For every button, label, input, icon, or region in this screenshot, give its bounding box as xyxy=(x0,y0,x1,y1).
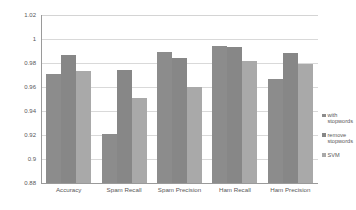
legend-swatch-icon xyxy=(322,153,326,157)
bar[interactable] xyxy=(172,58,187,183)
legend-item[interactable]: remove stopwords xyxy=(322,132,356,145)
x-axis-tick-label: Ham Precision xyxy=(263,186,318,193)
bar-group xyxy=(207,15,262,183)
bar[interactable] xyxy=(212,46,227,183)
bar-group xyxy=(152,15,207,183)
bar[interactable] xyxy=(61,55,76,183)
x-axis-tick-label: Spam Precision xyxy=(152,186,207,193)
y-axis-tick-label: 0.94 xyxy=(0,108,36,114)
y-axis-tick-label: 1.02 xyxy=(0,12,36,18)
y-axis-tick-label: 0.98 xyxy=(0,60,36,66)
bar[interactable] xyxy=(242,61,257,183)
chart-legend: with stopwordsremove stopwordsSVM xyxy=(322,112,356,165)
bar[interactable] xyxy=(227,47,242,183)
bar-group xyxy=(41,15,96,183)
bar-group xyxy=(96,15,151,183)
x-axis-tick-labels: AccuracySpam RecallSpam PrecisionHam Rec… xyxy=(41,186,318,193)
y-axis-tick-label: 0.92 xyxy=(0,132,36,138)
legend-label: with stopwords xyxy=(328,112,356,125)
bar[interactable] xyxy=(132,98,147,183)
bar[interactable] xyxy=(46,74,61,183)
y-axis-tick-label: 0.88 xyxy=(0,180,36,186)
y-axis-tick-label: 0.9 xyxy=(0,156,36,162)
bar-series-layer xyxy=(41,15,318,183)
gridline xyxy=(41,183,318,184)
legend-swatch-icon xyxy=(322,114,326,118)
bar[interactable] xyxy=(157,52,172,183)
x-axis-tick-label: Ham Recall xyxy=(207,186,262,193)
bar-chart: 1.0210.980.960.940.920.90.88 AccuracySpa… xyxy=(0,0,356,210)
bar[interactable] xyxy=(283,53,298,183)
y-axis-tick-label: 1 xyxy=(0,36,36,42)
bar[interactable] xyxy=(268,79,283,183)
bar[interactable] xyxy=(102,134,117,183)
x-axis-tick-label: Spam Recall xyxy=(96,186,151,193)
legend-item[interactable]: with stopwords xyxy=(322,112,356,125)
legend-label: remove stopwords xyxy=(328,132,356,145)
bar[interactable] xyxy=(187,87,202,183)
y-axis-tick-label: 0.96 xyxy=(0,84,36,90)
bar[interactable] xyxy=(76,71,91,183)
bar[interactable] xyxy=(298,64,313,183)
legend-label: SVM xyxy=(328,152,340,158)
x-axis-tick-label: Accuracy xyxy=(41,186,96,193)
legend-item[interactable]: SVM xyxy=(322,152,356,158)
legend-swatch-icon xyxy=(322,133,326,137)
bar-group xyxy=(263,15,318,183)
bar[interactable] xyxy=(117,70,132,183)
